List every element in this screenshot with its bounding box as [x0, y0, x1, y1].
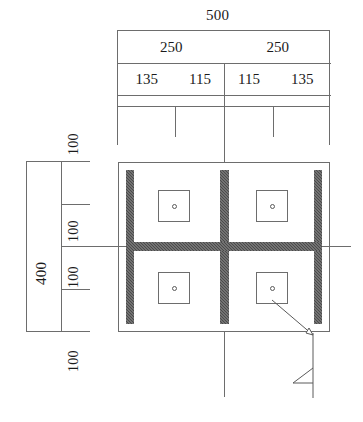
dim-tick-100-3: [61, 289, 90, 290]
dim-cell-135-a: 135: [118, 63, 176, 95]
column-bottom-left: [158, 272, 190, 304]
ext-tick-left-edge: [117, 107, 118, 145]
center-axis-lower: [224, 331, 225, 397]
column-top-left: [158, 190, 190, 222]
height-segment-label-4: 100: [67, 350, 81, 372]
center-axis-upper: [224, 64, 225, 163]
overall-height-label: 400: [34, 262, 49, 285]
ext-tick-right-edge: [329, 107, 330, 145]
height-segment-label-2: 100: [67, 220, 81, 242]
column-top-right: [256, 190, 288, 222]
dim-cell-135-b: 135: [274, 63, 332, 95]
dim-outer-tick-bottom: [26, 331, 90, 332]
dim-cell-250-right: 250: [225, 31, 332, 63]
overall-width-label: 500: [206, 8, 229, 23]
dim-outer-tick-top: [26, 161, 90, 162]
dim-tick-100-1: [61, 204, 90, 205]
column-center-dot: [172, 286, 177, 291]
wall-middle-horizontal: [126, 242, 322, 251]
ext-tick-right-wall: [273, 107, 274, 137]
section-marker-flag: [293, 368, 313, 383]
dim-cell-115-a: 115: [176, 63, 225, 95]
dim-outer-line-400: [26, 161, 27, 332]
column-center-dot: [270, 286, 275, 291]
height-segment-label-3: 100: [67, 266, 81, 288]
dim-cell-115-b: 115: [225, 63, 274, 95]
ext-tick-left-wall: [175, 107, 176, 137]
dim-cell-250-left: 250: [118, 31, 225, 63]
column-bottom-right: [256, 272, 288, 304]
column-center-dot: [172, 204, 177, 209]
height-segment-label-1: 100: [67, 133, 81, 155]
drawing-canvas: 500 250 250 135 115 115 135 400 100 100 …: [0, 0, 363, 422]
column-center-dot: [270, 204, 275, 209]
